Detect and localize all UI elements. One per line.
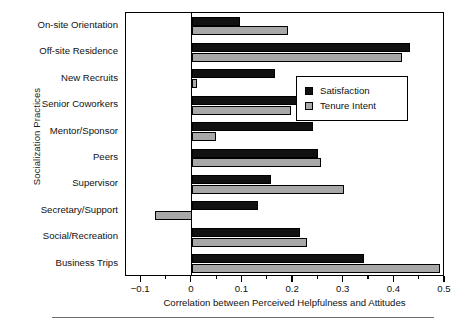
footer-divider (52, 317, 434, 318)
x-tick-major (190, 276, 191, 282)
bar-satisfaction (192, 122, 314, 131)
x-tick-major (241, 276, 242, 282)
x-axis-label: Correlation between Perceived Helpfulnes… (125, 297, 444, 308)
category-label: Business Trips (56, 250, 118, 276)
legend-swatch-icon (305, 87, 313, 95)
bar-satisfaction (192, 96, 306, 105)
x-tick-label: −0.1 (131, 283, 150, 294)
legend-swatch-icon (305, 102, 313, 110)
x-tick-minor (266, 276, 267, 279)
x-tick-label: 0.3 (336, 283, 349, 294)
category-label: Supervisor (72, 170, 118, 196)
legend-item: Satisfaction (305, 83, 400, 98)
bar-tenure-intent (192, 264, 440, 273)
bar-satisfaction (192, 43, 410, 52)
category-axis-labels: On-site OrientationOff-site ResidenceNew… (0, 12, 122, 276)
category-label: Mentor/Sponsor (50, 118, 118, 144)
x-tick-minor (367, 276, 368, 279)
bar-tenure-intent (192, 185, 344, 194)
bar-satisfaction (192, 254, 364, 263)
bar-satisfaction (192, 17, 240, 26)
bar-tenure-intent (192, 238, 307, 247)
x-tick-major (291, 276, 292, 282)
bar-satisfaction (192, 228, 300, 237)
x-tick-minor (165, 276, 166, 279)
legend-label: Tenure Intent (320, 100, 376, 111)
x-tick-major (443, 276, 444, 282)
bar-tenure-intent (192, 106, 291, 115)
category-label: Off-site Residence (39, 38, 118, 64)
x-tick-major (342, 276, 343, 282)
bar-tenure-intent (155, 211, 192, 220)
x-tick-label: 0.4 (387, 283, 400, 294)
bar-group (126, 145, 443, 171)
x-tick-major (140, 276, 141, 282)
chart-legend: SatisfactionTenure Intent (296, 76, 408, 121)
x-tick-minor (317, 276, 318, 279)
x-tick-label: 0.2 (285, 283, 298, 294)
category-label: Secretary/Support (41, 197, 118, 223)
bar-chart-figure: Socialization Practices On-site Orientat… (0, 0, 468, 331)
bar-group (126, 171, 443, 197)
bar-satisfaction (192, 149, 319, 158)
x-tick-label: 0 (188, 283, 193, 294)
x-tick-major (393, 276, 394, 282)
bar-tenure-intent (192, 79, 197, 88)
bar-tenure-intent (192, 158, 321, 167)
x-tick-label: 0.1 (235, 283, 248, 294)
bar-satisfaction (192, 69, 276, 78)
category-label: On-site Orientation (37, 12, 118, 38)
category-label: Peers (93, 144, 118, 170)
plot-inner (126, 13, 443, 275)
bar-group (126, 119, 443, 145)
x-axis-tick-labels: −0.100.10.20.30.40.5 (125, 283, 444, 297)
legend-label: Satisfaction (320, 85, 370, 96)
bar-group (126, 39, 443, 65)
bar-satisfaction (192, 175, 271, 184)
bar-tenure-intent (192, 53, 402, 62)
x-tick-label: 0.5 (437, 283, 450, 294)
bar-tenure-intent (192, 26, 288, 35)
category-label: Senior Coworkers (42, 91, 118, 117)
x-tick-minor (216, 276, 217, 279)
bar-group (126, 198, 443, 224)
legend-item: Tenure Intent (305, 98, 400, 113)
category-label: Social/Recreation (43, 223, 118, 249)
bar-group (126, 224, 443, 250)
bar-satisfaction (192, 201, 258, 210)
category-label: New Recruits (61, 65, 118, 91)
bar-tenure-intent (192, 132, 216, 141)
x-tick-minor (418, 276, 419, 279)
bar-group (126, 251, 443, 277)
plot-area (125, 12, 444, 276)
x-axis-ticks (125, 276, 444, 283)
bar-group (126, 13, 443, 39)
